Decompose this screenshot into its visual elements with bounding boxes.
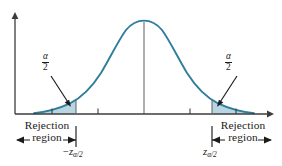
right-alpha-pointer-line	[220, 76, 238, 103]
normal-distribution-figure: α 2 α 2 Rejection region Rejection regio…	[0, 0, 282, 166]
right-alpha-denominator: 2	[225, 63, 232, 73]
right-rejection-line2: region	[215, 132, 271, 144]
right-critical-subscript: α/2	[207, 150, 217, 159]
left-critical-subscript: α/2	[73, 150, 83, 159]
left-alpha-numerator: α	[42, 52, 49, 63]
x-axis-arrowhead	[267, 111, 274, 118]
left-critical-value-label: −zα/2	[63, 147, 83, 159]
left-alpha-denominator: 2	[42, 63, 49, 73]
left-rejection-line2: region	[19, 132, 75, 144]
y-axis-arrowhead	[12, 12, 19, 19]
right-rejection-region-label: Rejection region	[215, 120, 271, 143]
right-critical-value-label: zα/2	[203, 147, 217, 159]
right-alpha-numerator: α	[225, 52, 232, 63]
left-rejection-line1: Rejection	[25, 119, 70, 131]
left-rejection-region-label: Rejection region	[19, 120, 75, 143]
left-alpha-over-two-label: α 2	[42, 52, 49, 74]
right-alpha-over-two-label: α 2	[225, 52, 232, 74]
left-alpha-pointer-line	[51, 76, 69, 103]
right-rejection-line1: Rejection	[221, 119, 266, 131]
